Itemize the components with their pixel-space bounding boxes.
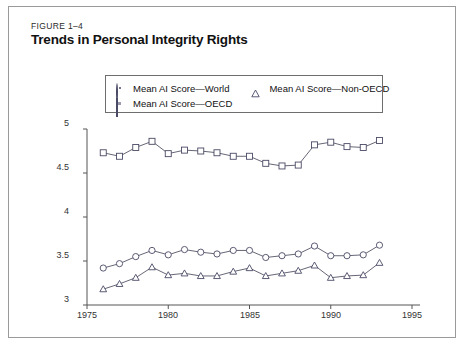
data-point: [376, 242, 382, 248]
data-point: [360, 272, 367, 278]
data-point: [214, 251, 220, 257]
data-point: [100, 150, 106, 156]
data-point: [311, 262, 318, 268]
data-point: [377, 137, 383, 143]
data-point: [279, 163, 285, 169]
data-point: [133, 254, 139, 260]
data-point: [132, 274, 139, 280]
x-tick-label-1975: 1975: [57, 310, 117, 320]
data-point: [360, 144, 366, 150]
data-point: [295, 251, 301, 257]
data-point: [117, 153, 123, 159]
x-tick-label-1995: 1995: [382, 310, 442, 320]
y-tick-label-3: 3: [47, 294, 69, 304]
data-point: [246, 247, 252, 253]
data-point: [149, 264, 156, 270]
data-point: [311, 243, 317, 249]
data-point: [295, 162, 301, 168]
figure-panel: FIGURE 1–4 Trends in Personal Integrity …: [8, 6, 456, 338]
data-point: [116, 261, 122, 267]
data-point: [198, 148, 204, 154]
data-point: [344, 144, 350, 150]
data-point: [246, 265, 253, 271]
chart-plot-area: [9, 7, 456, 338]
data-point: [165, 252, 171, 258]
data-point: [344, 253, 350, 259]
data-point: [230, 247, 236, 253]
data-point: [263, 254, 269, 260]
data-point: [230, 153, 236, 159]
series-triangle: [100, 259, 383, 291]
data-point: [100, 265, 106, 271]
data-point: [133, 144, 139, 150]
x-tick-label-1980: 1980: [138, 310, 198, 320]
data-point: [181, 246, 187, 252]
data-point: [165, 151, 171, 157]
y-tick-label-4-5: 4.5: [47, 162, 69, 172]
data-point: [279, 253, 285, 259]
data-point: [247, 153, 253, 159]
data-point: [376, 259, 383, 265]
x-tick-label-1990: 1990: [301, 310, 361, 320]
series-circle: [100, 242, 382, 271]
data-point: [360, 252, 366, 258]
y-tick-label-5: 5: [47, 118, 69, 128]
data-point: [149, 247, 155, 253]
data-point: [328, 139, 334, 145]
x-tick-label-1985: 1985: [220, 310, 280, 320]
data-point: [182, 147, 188, 153]
data-point: [312, 142, 318, 148]
data-point: [116, 280, 123, 286]
data-point: [181, 270, 188, 276]
data-point: [198, 249, 204, 255]
series-square: [100, 137, 382, 169]
data-point: [214, 150, 220, 156]
y-tick-label-3-5: 3.5: [47, 250, 69, 260]
y-tick-label-4: 4: [47, 206, 69, 216]
data-point: [263, 160, 269, 166]
data-point: [149, 138, 155, 144]
data-point: [328, 253, 334, 259]
